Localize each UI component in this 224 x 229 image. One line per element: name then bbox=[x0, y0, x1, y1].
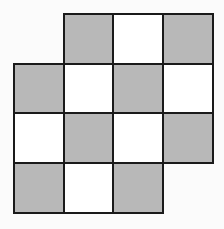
grid-cell-white bbox=[63, 162, 115, 214]
grid-cell-gray bbox=[63, 112, 115, 164]
grid-cell-gray bbox=[162, 13, 214, 65]
grid-cell-white bbox=[63, 63, 115, 115]
grid-cell-gray bbox=[112, 162, 164, 214]
grid-cell-gray bbox=[112, 63, 164, 115]
grid-cell-gray bbox=[13, 63, 65, 115]
grid-cell-white bbox=[112, 112, 164, 164]
checkered-grid-diagram bbox=[0, 0, 224, 229]
grid-cell-white bbox=[162, 63, 214, 115]
grid-cell-gray bbox=[13, 162, 65, 214]
grid-cell-white bbox=[13, 112, 65, 164]
grid-cell-white bbox=[112, 13, 164, 65]
grid-cell-gray bbox=[63, 13, 115, 65]
grid-cell-gray bbox=[162, 112, 214, 164]
